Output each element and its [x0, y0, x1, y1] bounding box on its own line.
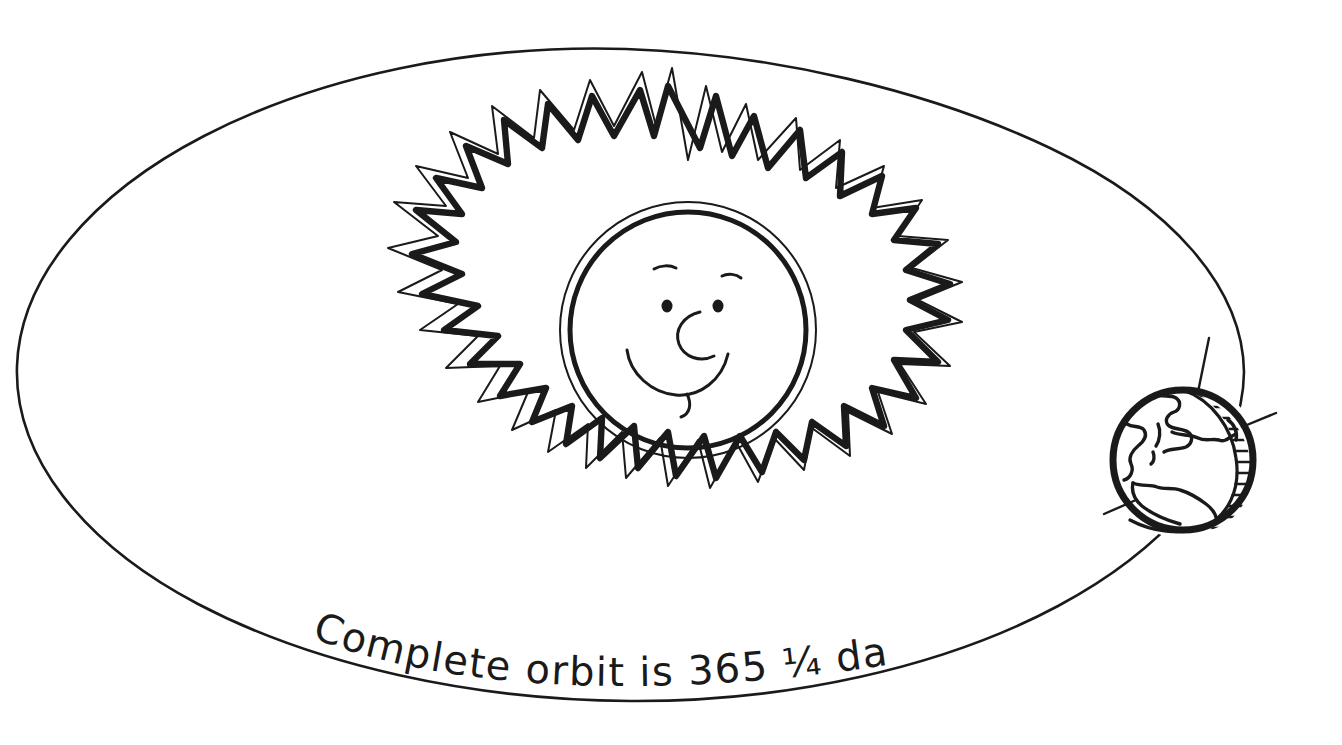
- sun-eye-left: [662, 300, 673, 313]
- svg-text:Complete orbit is 365 ¼ days: Complete orbit is 365 ¼ days: [0, 0, 891, 695]
- earth-shadow-hatching: [1130, 396, 1268, 528]
- sun-eyebrow-right: [722, 274, 741, 278]
- orbit-ellipse: [17, 49, 1244, 702]
- sun-eyebrow-left: [654, 266, 676, 269]
- sun-corona-inner: [412, 86, 950, 478]
- sun-tongue: [681, 394, 690, 417]
- sun-face: [627, 266, 741, 417]
- sun-eye-right: [713, 300, 724, 313]
- sun-nose: [678, 312, 714, 359]
- caption-label: Complete orbit is 365 ¼ days: [0, 0, 891, 695]
- orbit-caption: Complete orbit is 365 ¼ days: [0, 0, 900, 695]
- diagram-canvas: Complete orbit is 365 ¼ days: [0, 0, 1342, 745]
- orbit-diagram: Complete orbit is 365 ¼ days: [0, 0, 1342, 745]
